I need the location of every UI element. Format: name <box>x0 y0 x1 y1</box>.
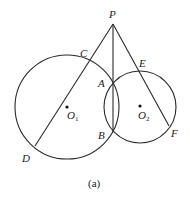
label-o1: O1 <box>67 109 79 123</box>
geometry-diagram: P C A E B F D O1 O2 (a) <box>0 0 190 199</box>
label-p: P <box>108 8 116 20</box>
label-e: E <box>138 57 146 69</box>
label-f: F <box>170 127 178 139</box>
label-b: B <box>98 129 105 141</box>
label-a: A <box>97 77 105 89</box>
center-dot-o2 <box>138 104 141 107</box>
figure-caption: (a) <box>88 177 101 190</box>
label-c: C <box>80 47 88 59</box>
label-d: D <box>21 152 30 164</box>
label-o2: O2 <box>138 109 150 123</box>
